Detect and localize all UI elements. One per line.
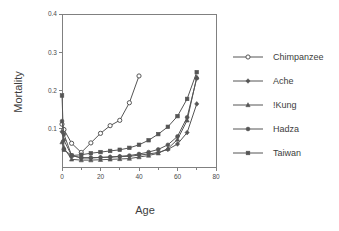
data-point-marker bbox=[118, 148, 122, 152]
x-axis-title: Age bbox=[135, 204, 155, 216]
data-point-marker bbox=[195, 70, 199, 74]
data-point-marker bbox=[108, 124, 112, 128]
data-point-marker bbox=[62, 148, 66, 152]
data-point-marker bbox=[166, 125, 170, 129]
y-tick-label: 0.2 bbox=[48, 87, 57, 94]
x-tick-label: 40 bbox=[135, 173, 143, 180]
data-point-marker bbox=[89, 156, 93, 160]
data-point-marker bbox=[166, 143, 170, 147]
legend-label: Chimpanzee bbox=[273, 52, 324, 62]
data-point-marker bbox=[137, 74, 141, 78]
data-point-marker bbox=[147, 150, 151, 154]
chart-screenshot: 0.10.20.30.4 020406080 ChimpanzeeAche!Ku… bbox=[0, 0, 339, 231]
data-point-marker bbox=[246, 127, 250, 131]
data-point-marker bbox=[118, 118, 122, 122]
data-point-marker bbox=[156, 148, 160, 152]
legend-label: Taiwan bbox=[273, 148, 301, 158]
data-point-marker bbox=[195, 102, 199, 107]
data-point-marker bbox=[89, 151, 93, 155]
legend-item-chimpanzee[interactable]: Chimpanzee bbox=[233, 52, 324, 62]
legend-label: !Kung bbox=[273, 100, 297, 110]
data-point-marker bbox=[185, 97, 189, 101]
legend-item-hadza[interactable]: Hadza bbox=[233, 124, 299, 134]
x-tick-label: 80 bbox=[212, 173, 220, 180]
data-point-marker bbox=[137, 143, 141, 147]
data-point-marker bbox=[176, 135, 180, 139]
data-point-marker bbox=[127, 154, 131, 158]
data-point-marker bbox=[70, 141, 74, 145]
data-point-marker bbox=[60, 94, 64, 98]
legend-label: Ache bbox=[273, 76, 294, 86]
chart-legend: ChimpanzeeAche!KungHadzaTaiwan bbox=[233, 52, 324, 158]
series-chimpanzee bbox=[60, 74, 141, 155]
x-axis-ticks: 020406080 bbox=[60, 167, 220, 180]
data-point-marker bbox=[246, 79, 250, 84]
data-point-marker bbox=[79, 153, 83, 157]
data-point-marker bbox=[246, 151, 250, 155]
data-point-marker bbox=[137, 152, 141, 156]
data-point-marker bbox=[99, 156, 103, 160]
x-tick-label: 0 bbox=[60, 173, 64, 180]
x-tick-label: 60 bbox=[174, 173, 182, 180]
data-point-marker bbox=[62, 132, 66, 136]
y-axis-title: Mortality bbox=[12, 71, 24, 113]
data-point-marker bbox=[156, 132, 160, 136]
data-point-marker bbox=[246, 55, 250, 59]
legend-item-ache[interactable]: Ache bbox=[233, 76, 294, 86]
data-point-marker bbox=[128, 146, 132, 150]
data-series-group bbox=[60, 70, 199, 161]
data-point-marker bbox=[176, 114, 180, 118]
data-point-marker bbox=[89, 141, 93, 145]
y-tick-label: 0.3 bbox=[48, 49, 57, 56]
y-tick-label: 0.4 bbox=[48, 10, 57, 17]
data-point-marker bbox=[99, 150, 103, 154]
data-point-marker bbox=[108, 155, 112, 159]
data-point-marker bbox=[70, 154, 74, 158]
y-tick-label: 0.1 bbox=[48, 125, 57, 132]
legend-label: Hadza bbox=[273, 124, 299, 134]
y-axis-ticks: 0.10.20.30.4 bbox=[48, 10, 62, 132]
data-point-marker bbox=[108, 149, 112, 153]
data-point-marker bbox=[147, 138, 151, 142]
data-point-marker bbox=[98, 131, 102, 135]
mortality-age-chart: 0.10.20.30.4 020406080 ChimpanzeeAche!Ku… bbox=[0, 0, 339, 231]
series-line bbox=[62, 76, 139, 153]
data-point-marker bbox=[118, 154, 122, 158]
x-tick-label: 20 bbox=[97, 173, 105, 180]
legend-item-taiwan[interactable]: Taiwan bbox=[233, 148, 301, 158]
data-point-marker bbox=[127, 101, 131, 105]
legend-item--kung[interactable]: !Kung bbox=[233, 100, 297, 110]
data-point-marker bbox=[185, 115, 189, 119]
